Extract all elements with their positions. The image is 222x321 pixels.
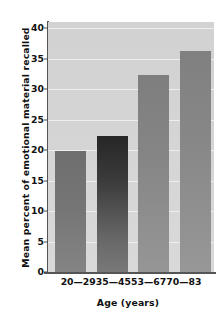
x-tick-label: 35—45 — [96, 277, 131, 286]
y-tick-label: 30 — [22, 84, 44, 93]
y-tick-mark — [44, 89, 48, 90]
y-tick-mark — [44, 28, 48, 29]
bar — [138, 75, 169, 272]
y-axis-tick-labels: 0510152025303540 — [22, 0, 44, 321]
plot-area — [48, 22, 214, 272]
x-tick-label: 70—83 — [166, 277, 201, 286]
y-tick-mark — [44, 180, 48, 181]
y-tick-label: 35 — [22, 54, 44, 63]
bar — [55, 151, 86, 272]
y-tick-label: 10 — [22, 206, 44, 215]
x-axis-tick-labels: 20—2935—4553—6770—83 — [48, 277, 214, 291]
gridline — [48, 28, 214, 29]
y-tick-mark — [44, 119, 48, 120]
y-tick-mark — [44, 211, 48, 212]
y-tick-mark — [44, 58, 48, 59]
bar-chart-figure: Mean percent of emotional material recal… — [0, 0, 222, 321]
y-tick-mark — [44, 241, 48, 242]
y-tick-mark — [44, 272, 48, 273]
y-tick-label: 20 — [22, 145, 44, 154]
x-tick-label: 53—67 — [131, 277, 166, 286]
y-tick-label: 15 — [22, 176, 44, 185]
x-tick-label: 20—29 — [61, 277, 96, 286]
y-tick-label: 0 — [22, 267, 44, 276]
x-axis-line — [44, 272, 216, 274]
y-tick-mark — [44, 150, 48, 151]
bar — [180, 51, 211, 272]
y-tick-label: 40 — [22, 23, 44, 32]
y-tick-label: 25 — [22, 115, 44, 124]
x-axis-title: Age (years) — [40, 297, 216, 308]
bar — [97, 136, 128, 272]
y-tick-label: 5 — [22, 237, 44, 246]
